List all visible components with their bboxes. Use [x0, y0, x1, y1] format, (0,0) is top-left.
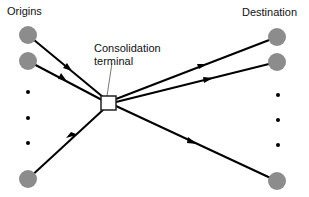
- inbound-arrowheads: [58, 63, 76, 141]
- origins-label: Origins: [7, 5, 42, 17]
- terminal-label-line1: Consolidation: [94, 42, 161, 54]
- origin-node: [19, 26, 37, 44]
- origin-ellipsis: [26, 90, 30, 145]
- destination-ellipsis: [276, 93, 280, 147]
- ellipsis-dot: [26, 90, 30, 94]
- origin-node: [19, 52, 37, 70]
- destination-node: [268, 28, 286, 46]
- destination-nodes: [268, 28, 286, 190]
- ellipsis-dot: [26, 116, 30, 120]
- edge-destination-3: [116, 106, 277, 181]
- consolidation-diagram: Origins Destination Consolidation termin…: [0, 0, 309, 197]
- arrow-icon: [187, 137, 197, 144]
- edge-origin-3: [28, 109, 104, 179]
- destination-label: Destination: [242, 6, 297, 18]
- terminal-leader-line: [107, 63, 112, 96]
- consolidation-terminal: [101, 96, 116, 110]
- outbound-edges: [116, 37, 277, 181]
- origin-nodes: [19, 26, 37, 188]
- ellipsis-dot: [276, 143, 280, 147]
- diagram-svg: Origins Destination Consolidation termin…: [0, 0, 309, 197]
- inbound-edges: [28, 35, 104, 179]
- ellipsis-dot: [276, 118, 280, 122]
- destination-node: [268, 172, 286, 190]
- terminal-label-line2: terminal: [94, 55, 133, 67]
- ellipsis-dot: [26, 141, 30, 145]
- outbound-arrowheads: [187, 64, 213, 144]
- destination-node: [268, 53, 286, 71]
- origin-node: [19, 170, 37, 188]
- ellipsis-dot: [276, 93, 280, 97]
- arrow-icon: [203, 77, 213, 83]
